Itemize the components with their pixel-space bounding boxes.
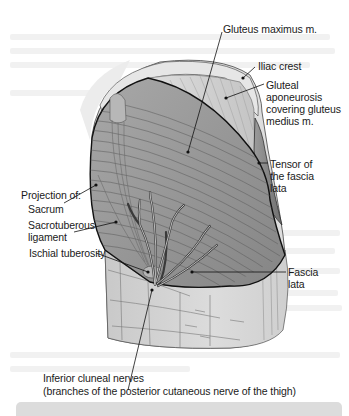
sacrum-projection <box>110 93 126 123</box>
label-ischial-tuberosity: Ischial tuberosity <box>29 247 105 259</box>
caption-bar <box>16 402 342 416</box>
label-gluteal-aponeurosis: Gluteal aponeurosis covering gluteus med… <box>266 79 341 127</box>
label-sacrotuberous-ligament: Sacrotuberous ligament <box>28 219 95 243</box>
label-sacrum: Sacrum <box>28 203 64 215</box>
label-fascia-lata: Fascia lata <box>288 266 318 290</box>
label-inferior-cluneal-note: (branches of the posterior cutaneous ner… <box>43 385 296 397</box>
label-gluteus-maximus: Gluteus maximus m. <box>223 23 317 35</box>
label-inferior-cluneal-nerves: Inferior cluneal nerves <box>43 372 144 384</box>
label-tensor-fascia-lata: Tensor of the fascia lata <box>270 158 314 194</box>
label-iliac-crest: Iliac crest <box>258 60 301 72</box>
label-projection-of: Projection of: <box>21 189 81 201</box>
